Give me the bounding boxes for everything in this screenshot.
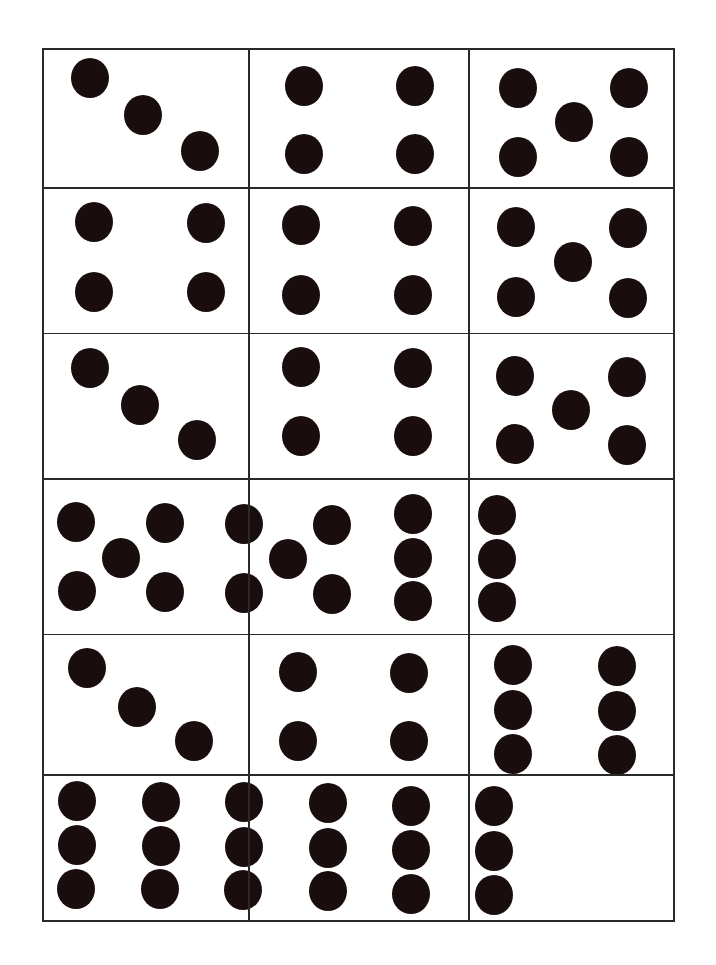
dot-icon <box>313 505 351 545</box>
dot-icon <box>282 347 320 387</box>
dot-icon <box>282 416 320 456</box>
dot-icon <box>309 871 347 911</box>
dot-icon <box>285 134 323 174</box>
dot-icon <box>102 538 140 578</box>
dot-icon <box>608 425 646 465</box>
dot-icon <box>142 826 180 866</box>
grid-row-divider <box>42 774 675 776</box>
dot-icon <box>475 831 513 871</box>
dot-icon <box>187 203 225 243</box>
dot-icon <box>279 721 317 761</box>
dot-icon <box>394 275 432 315</box>
dot-icon <box>475 875 513 915</box>
dot-card-r2-c2 <box>248 187 468 332</box>
dot-icon <box>555 102 593 142</box>
dot-icon <box>58 781 96 821</box>
dot-icon <box>309 828 347 868</box>
dot-icon <box>118 687 156 727</box>
dot-icon <box>124 95 162 135</box>
dot-icon <box>609 278 647 318</box>
dot-icon <box>494 690 532 730</box>
dot-icon <box>497 207 535 247</box>
grid-row-divider <box>42 920 675 922</box>
dot-icon <box>394 581 432 621</box>
grid-row-divider <box>42 187 675 189</box>
dot-icon <box>394 206 432 246</box>
grid-row-divider <box>42 478 675 480</box>
dot-icon <box>497 277 535 317</box>
dot-icon <box>496 424 534 464</box>
grid-row-divider <box>42 48 675 50</box>
dot-icon <box>390 653 428 693</box>
grid-row-divider <box>42 634 675 636</box>
dot-icon <box>390 721 428 761</box>
dot-icon <box>396 134 434 174</box>
dot-icon <box>146 503 184 543</box>
dot-icon <box>478 495 516 535</box>
dot-icon <box>494 645 532 685</box>
dot-icon <box>141 869 179 909</box>
dot-icon <box>71 348 109 388</box>
grid-column-divider <box>673 48 675 920</box>
dot-icon <box>75 272 113 312</box>
dot-icon <box>610 68 648 108</box>
dot-icon <box>225 827 263 867</box>
dot-icon <box>146 572 184 612</box>
dot-icon <box>279 652 317 692</box>
dot-icon <box>282 205 320 245</box>
dot-icon <box>394 416 432 456</box>
dot-icon <box>285 66 323 106</box>
dot-icon <box>598 691 636 731</box>
dot-card-r1-c2 <box>248 48 468 187</box>
dot-card-r3-c2 <box>248 332 468 477</box>
dot-icon <box>225 504 263 544</box>
dot-icon <box>225 573 263 613</box>
dot-icon <box>475 786 513 826</box>
dot-icon <box>68 648 106 688</box>
dot-icon <box>499 68 537 108</box>
dot-icon <box>178 420 216 460</box>
dot-icon <box>181 131 219 171</box>
dot-card-sheet <box>0 0 716 965</box>
dot-icon <box>142 782 180 822</box>
dot-icon <box>554 242 592 282</box>
dot-icon <box>609 208 647 248</box>
dot-card-r6-c2 <box>248 772 468 918</box>
dot-icon <box>58 825 96 865</box>
dot-icon <box>394 348 432 388</box>
grid-row-divider <box>42 333 675 335</box>
dot-icon <box>121 385 159 425</box>
dot-icon <box>392 830 430 870</box>
dot-icon <box>598 646 636 686</box>
dot-icon <box>494 734 532 774</box>
dot-icon <box>58 571 96 611</box>
dot-icon <box>608 357 646 397</box>
dot-icon <box>478 539 516 579</box>
dot-icon <box>392 786 430 826</box>
dot-icon <box>394 538 432 578</box>
grid-column-divider <box>468 48 470 920</box>
dot-icon <box>313 574 351 614</box>
dot-icon <box>396 66 434 106</box>
dot-icon <box>598 735 636 775</box>
grid-column-divider <box>42 48 44 920</box>
dot-icon <box>71 58 109 98</box>
dot-icon <box>75 202 113 242</box>
dot-icon <box>57 869 95 909</box>
dot-icon <box>225 782 263 822</box>
dot-icon <box>478 582 516 622</box>
dot-icon <box>309 783 347 823</box>
dot-icon <box>552 390 590 430</box>
dot-icon <box>392 874 430 914</box>
dot-icon <box>499 137 537 177</box>
dot-icon <box>187 272 225 312</box>
dot-icon <box>224 870 262 910</box>
dot-icon <box>269 539 307 579</box>
grid-column-divider <box>248 48 250 920</box>
dot-icon <box>496 356 534 396</box>
dot-icon <box>175 721 213 761</box>
dot-icon <box>57 502 95 542</box>
dot-icon <box>394 494 432 534</box>
dot-icon <box>610 137 648 177</box>
dot-icon <box>282 275 320 315</box>
